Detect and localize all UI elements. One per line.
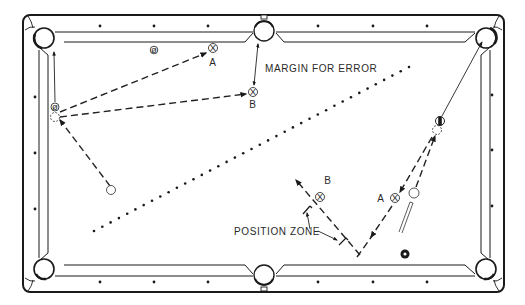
pool-table-diagram: ø ø X A X B MARGIN FOR ERROR [0,0,525,305]
dotted-line-dot [192,178,195,181]
left-shot: ø [51,52,247,195]
position-zone-arrow-right [318,231,337,240]
dotted-line-dot [275,135,278,138]
dotted-line-dot [176,187,179,190]
corner-jaw-tl [25,16,35,30]
diamond-right [491,149,494,152]
dotted-line-dot [118,217,121,220]
dotted-line-dot [341,100,344,103]
diamond-top [99,25,102,28]
diamond-top [372,25,375,28]
dotted-line-dot [308,118,311,121]
diamond-right [491,205,494,208]
dotted-line-dot [259,143,262,146]
right-object-path [442,42,482,116]
bottom-cushion-right [276,265,475,276]
dotted-line-dot [391,74,394,77]
dotted-line-dot [317,113,320,116]
dotted-line-dot [366,87,369,90]
position-zone-lower-bracket [339,238,348,245]
diamond-bottom [207,281,210,284]
dotted-line-dot [383,79,386,82]
striped-object-ball [436,117,445,126]
diamond-bottom [153,281,156,284]
top-object-ball: ø [150,44,158,55]
pocket-top-left [34,28,54,48]
target-a-bottom: X [391,192,400,203]
svg-text:X: X [317,191,324,202]
right-carom-path-continued [371,206,392,237]
dotted-line-dot [142,204,145,207]
pocket-bottom-left [34,259,54,279]
position-zone-v-right [357,236,372,257]
dotted-line-dot [333,105,336,108]
dotted-line-dot [225,161,228,164]
bottom-cushion-left [55,265,253,276]
target-b-top: X [249,86,258,97]
right-ghost-ball [433,126,442,135]
right-cue-path [416,136,435,187]
svg-text:X: X [210,42,217,53]
diamond-bottom [99,281,102,284]
dotted-line-dot [267,139,270,142]
label-a-bottom: A [377,193,384,204]
dotted-line-dot [109,221,112,224]
dotted-line-dot [126,212,129,215]
target-a-top: X [209,42,218,53]
position-zone-v-left [296,180,360,255]
pocket-top-middle [254,15,274,41]
pocket-bottom-right [476,259,496,279]
dotted-line-dot [201,174,204,177]
top-cushion-left [55,32,253,42]
diamond-left [34,152,37,155]
label-b-bottom: B [324,175,331,186]
top-targets: ø X A X B MARGIN FOR ERROR [150,42,377,110]
right-carom-path [400,137,432,192]
dotted-line-dot [325,109,328,112]
right-shot: X A [371,42,482,237]
svg-text:ø: ø [52,101,58,112]
left-cue-ball [107,186,116,195]
left-ghost-ball [51,113,60,122]
corner-jaw-bl [25,278,35,291]
dotted-line-dot [242,152,245,155]
position-zone-label: POSITION ZONE [234,226,320,237]
svg-text:X: X [250,86,257,97]
dotted-line-dot [399,70,402,73]
dotted-line-dot [408,66,411,69]
dotted-line-dot [151,200,154,203]
position-zone-upper-bracket [303,206,312,214]
svg-text:ø: ø [151,44,157,55]
margin-for-error-label: MARGIN FOR ERROR [265,63,377,74]
dotted-line-dot [250,148,253,151]
dotted-line-dot [358,92,361,95]
dotted-line-dot [217,165,220,168]
dotted-line-dot [375,83,378,86]
dotted-line-dot [101,225,104,228]
diamond-left [34,96,37,99]
cue-path-to-a [60,53,206,112]
right-cue-ball [409,188,419,198]
target-b-bottom: X [316,191,325,202]
diamond-bottom [317,281,320,284]
dotted-line-dot [234,156,237,159]
rail-diamonds [34,25,494,284]
left-object-ball: ø [51,101,59,112]
diamond-top [153,25,156,28]
dotted-line-dot [209,169,212,172]
diamond-bottom [426,281,429,284]
diamond-right [491,94,494,97]
corner-jaw-br [493,278,502,291]
left-cue-path [60,120,110,186]
dotted-line-dot [159,195,162,198]
margin-for-error-arrow [254,44,258,85]
dotted-line-dot [350,96,353,99]
svg-text:X: X [392,192,399,203]
dotted-line-dot [167,191,170,194]
diamond-top [426,25,429,28]
dotted-line-dot [134,208,137,211]
cue-stick [399,202,413,233]
dotted-line-dot [300,122,303,125]
corner-jaw-tr [493,16,502,30]
table-frame [23,15,504,292]
